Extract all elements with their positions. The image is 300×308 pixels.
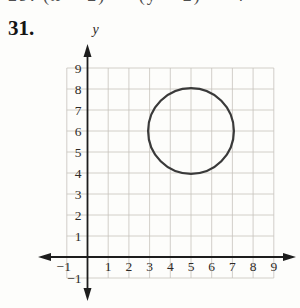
- y-axis-bottom-arrow: [84, 288, 92, 301]
- y-axis-top-arrow: [84, 44, 92, 57]
- y-tick-label: 2: [75, 208, 82, 223]
- x-tick-label: 9: [270, 259, 277, 274]
- x-tick-label: 4: [167, 259, 174, 274]
- x-tick-label: 1: [105, 259, 112, 274]
- x-axis-left-arrow: [38, 253, 51, 261]
- x-tick-label: 6: [208, 259, 215, 274]
- x-tick-label: 2: [126, 259, 133, 274]
- y-tick-label: −1: [67, 271, 81, 286]
- x-tick-label: 8: [250, 259, 257, 274]
- y-tick-label: 4: [75, 166, 82, 181]
- x-tick-label: 3: [146, 259, 153, 274]
- y-tick-label: 8: [75, 82, 82, 97]
- y-tick-label: 9: [75, 61, 82, 76]
- coordinate-plane: −1123456789−1123456789y: [0, 0, 300, 308]
- textbook-figure: 29. (x − 2)² + (y − 2)² = 4 31. −1123456…: [0, 0, 300, 308]
- x-tick-label: 7: [229, 259, 236, 274]
- x-axis-right-arrow: [283, 253, 296, 261]
- y-tick-label: 3: [75, 187, 82, 202]
- y-tick-label: 5: [75, 145, 82, 160]
- y-tick-label: 7: [75, 103, 82, 118]
- y-tick-label: 1: [75, 229, 82, 244]
- x-tick-label: 5: [188, 259, 195, 274]
- y-tick-label: 6: [75, 124, 82, 139]
- y-axis-label: y: [91, 22, 100, 37]
